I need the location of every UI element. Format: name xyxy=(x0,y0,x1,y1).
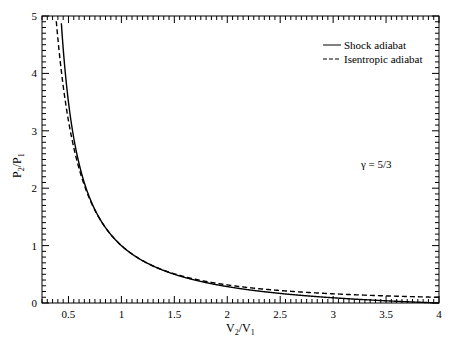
legend-shock-label: Shock adiabat xyxy=(344,39,406,51)
legend: Shock adiabat Isentropic adiabat xyxy=(323,39,423,65)
chart-canvas: 0.511.522.533.54012345 Shock adiabat Ise… xyxy=(0,0,455,349)
legend-isentropic-label: Isentropic adiabat xyxy=(344,53,423,65)
y-axis-label: P2/P1 xyxy=(10,153,26,178)
y-tick-label: 3 xyxy=(32,125,38,137)
gamma-annotation: γ = 5/3 xyxy=(360,158,392,170)
x-tick-label: 2 xyxy=(225,308,231,320)
y-tick-label: 0 xyxy=(32,297,38,309)
x-axis-label: V2/V1 xyxy=(226,321,255,337)
x-tick-label: 0.5 xyxy=(62,308,76,320)
y-tick-label: 4 xyxy=(32,67,38,79)
x-tick-label: 1.5 xyxy=(167,308,181,320)
x-tick-label: 4 xyxy=(436,308,442,320)
x-tick-label: 2.5 xyxy=(273,308,287,320)
y-tick-label: 2 xyxy=(32,182,38,194)
y-tick-label: 5 xyxy=(32,10,38,22)
y-tick-label: 1 xyxy=(32,240,38,252)
x-tick-label: 3.5 xyxy=(379,308,393,320)
x-tick-label: 1 xyxy=(119,308,125,320)
x-tick-label: 3 xyxy=(330,308,336,320)
